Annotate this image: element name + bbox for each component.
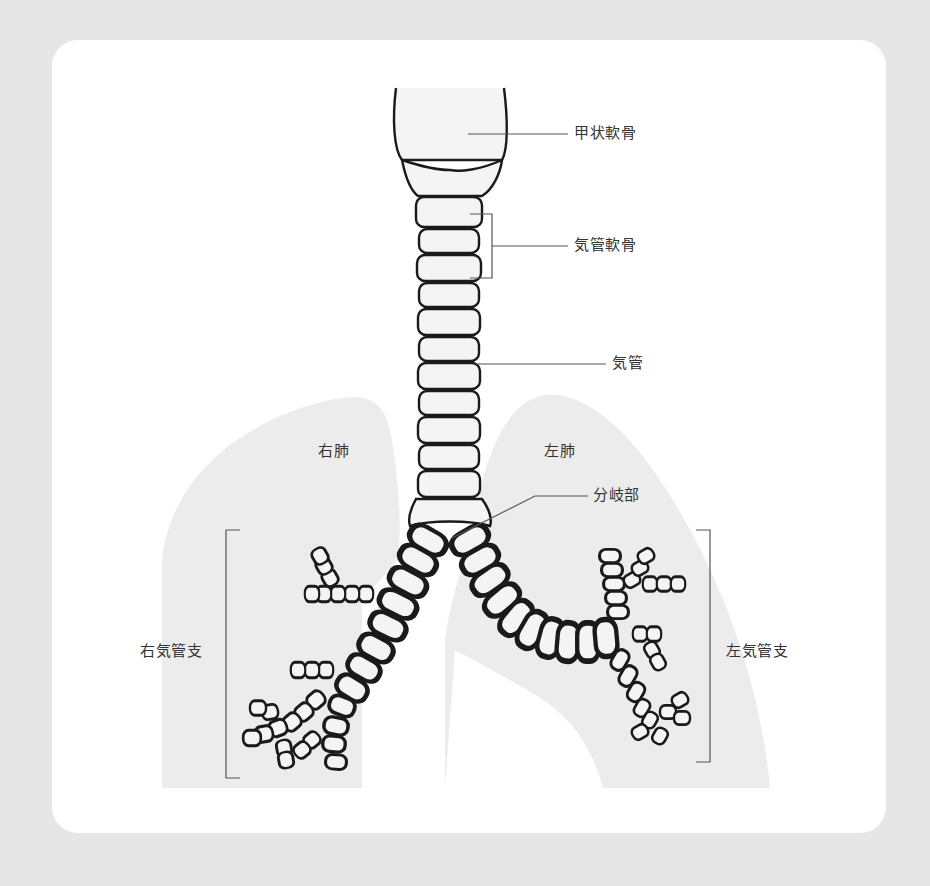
label-right-bronchus: 右気管支 (140, 644, 202, 659)
label-left-bronchus: 左気管支 (726, 644, 788, 659)
thyroid-cartilage-shape (394, 88, 507, 160)
trachea-rings (409, 197, 490, 526)
label-right-lung: 右肺 (318, 444, 349, 459)
label-left-lung: 左肺 (544, 444, 575, 459)
label-tracheal-cartilage: 気管軟骨 (574, 238, 636, 253)
label-thyroid-cartilage: 甲状軟骨 (574, 126, 636, 141)
label-trachea: 気管 (612, 356, 643, 371)
label-carina: 分岐部 (593, 488, 640, 503)
respiratory-tract-illustration (0, 0, 930, 886)
